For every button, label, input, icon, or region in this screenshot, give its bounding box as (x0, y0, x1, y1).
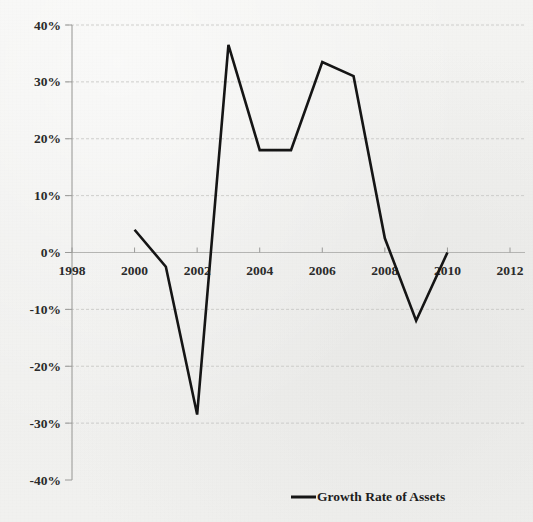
y-axis-label-2: 20% (34, 131, 61, 146)
x-axis-label-3: 2004 (246, 263, 273, 278)
legend-label-0: Growth Rate of Assets (317, 489, 445, 504)
series-line-0 (135, 45, 448, 415)
y-axis-label-1: 30% (34, 74, 61, 89)
growth-rate-of-assets-line-chart: 40%30%20%10%0%-10%-20%-30%-40% 199820002… (0, 0, 533, 522)
y-axis-label-4: 0% (41, 245, 61, 260)
y-axis-label-6: -20% (30, 359, 62, 374)
x-axis-label-7: 2012 (497, 263, 524, 278)
x-axis-tick-labels: 19982000200220042006200820102012 (59, 263, 524, 278)
x-axis-label-4: 2006 (309, 263, 336, 278)
x-axis-label-2: 2002 (184, 263, 211, 278)
x-axis-label-0: 1998 (59, 263, 86, 278)
x-axis-label-1: 2000 (121, 263, 148, 278)
y-axis-label-8: -40% (30, 473, 62, 488)
y-axis-label-0: 40% (34, 18, 61, 33)
chart-legend[interactable]: Growth Rate of Assets (291, 489, 445, 504)
y-axis-label-5: -10% (30, 302, 62, 317)
y-axis-label-7: -30% (30, 416, 62, 431)
gridlines (66, 25, 525, 423)
y-axis-tick-labels: 40%30%20%10%0%-10%-20%-30%-40% (30, 18, 62, 488)
data-series (135, 45, 448, 415)
chart-plot-svg: 40%30%20%10%0%-10%-20%-30%-40% 199820002… (0, 0, 533, 522)
y-axis-label-3: 10% (34, 188, 61, 203)
